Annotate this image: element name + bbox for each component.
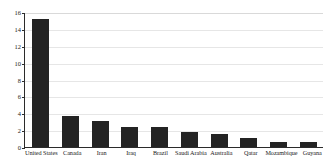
bar-slot — [85, 13, 115, 147]
bar — [181, 132, 198, 147]
x-axis-tick-label: Brazil — [146, 150, 175, 157]
bar — [211, 134, 228, 147]
y-axis-tick-mark — [22, 81, 25, 82]
y-axis-tick-mark — [22, 131, 25, 132]
y-axis-tick-label: 6 — [18, 94, 21, 101]
x-axis-tick-label: Iraq — [116, 150, 145, 157]
bar-slot — [145, 13, 175, 147]
bar — [270, 142, 287, 147]
y-axis-tick-label: 10 — [15, 60, 22, 67]
x-axis-tick-label: Qatar — [236, 150, 265, 157]
y-axis-tick-labels: 0246810121416 — [0, 13, 21, 148]
bar — [121, 127, 138, 147]
x-axis-tick-label: Guyana — [298, 150, 327, 157]
x-axis-tick-label: United States — [25, 150, 58, 157]
x-axis-tick-label: Iran — [87, 150, 116, 157]
bar-slot — [115, 13, 145, 147]
bar-slot — [204, 13, 234, 147]
bar — [240, 138, 257, 147]
y-axis-tick-mark — [22, 97, 25, 98]
plot-area — [24, 13, 323, 148]
y-axis-tick-label: 0 — [18, 145, 21, 152]
y-axis-tick-label: 16 — [15, 10, 22, 17]
bar-slot — [293, 13, 323, 147]
bar — [62, 116, 79, 147]
x-axis-tick-label: Australia — [207, 150, 236, 157]
x-axis-tick-label: Saudi Arabia — [175, 150, 207, 157]
y-axis-tick-mark — [22, 13, 25, 14]
y-axis-tick-mark — [22, 114, 25, 115]
bar-slot — [234, 13, 264, 147]
y-axis-tick-label: 12 — [15, 44, 22, 51]
y-axis-tick-mark — [22, 30, 25, 31]
y-axis-tick-mark — [22, 47, 25, 48]
bar-slot — [264, 13, 294, 147]
bar-slot — [56, 13, 86, 147]
y-axis-tick-label: 2 — [18, 128, 21, 135]
bar — [92, 121, 109, 147]
y-axis-tick-label: 14 — [15, 27, 22, 34]
x-axis-tick-label: Mozambique — [265, 150, 297, 157]
y-axis-tick-label: 8 — [18, 77, 21, 84]
bar — [32, 19, 49, 147]
x-axis-tick-labels: United StatesCanadaIranIraqBrazilSaudi A… — [25, 150, 327, 164]
x-axis-tick-label: Canada — [58, 150, 87, 157]
bar — [151, 127, 168, 147]
y-axis-tick-label: 4 — [18, 111, 21, 118]
bar-slot — [26, 13, 56, 147]
bar-slot — [175, 13, 205, 147]
bar-chart: Million bar/d 0246810121416 United State… — [0, 0, 327, 167]
y-axis-tick-mark — [22, 64, 25, 65]
bars-group — [26, 13, 323, 147]
bar — [300, 142, 317, 147]
